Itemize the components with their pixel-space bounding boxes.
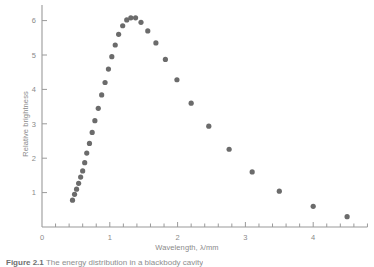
data-point — [250, 169, 255, 174]
x-tick-label: 1 — [108, 233, 112, 242]
data-point — [174, 77, 179, 82]
data-point — [74, 187, 79, 192]
data-point — [80, 168, 85, 173]
y-axis-label: Relative brightness — [21, 91, 30, 157]
data-point — [189, 101, 194, 106]
x-tick-label: 4 — [311, 233, 315, 242]
figure-caption: Figure 2.1 The energy distribution in a … — [6, 258, 203, 267]
x-axis-label: Wavelength, λ/mm — [0, 243, 374, 252]
x-tick-label: 0 — [40, 233, 44, 242]
data-point — [78, 175, 83, 180]
data-point — [82, 160, 87, 165]
data-point — [153, 40, 158, 45]
y-tick-label: 6 — [32, 16, 36, 25]
figure-caption-number: Figure 2.1 — [6, 258, 44, 267]
data-point — [99, 92, 104, 97]
data-point — [138, 20, 143, 25]
data-point — [90, 130, 95, 135]
y-axis-label-wrapper: Relative brightness — [14, 44, 32, 204]
scatter-plot: 01234123456 — [0, 0, 374, 267]
data-point — [76, 181, 81, 186]
figure-container: 01234123456 Wavelength, λ/mm Relative br… — [0, 0, 374, 267]
data-points — [70, 15, 350, 219]
data-point — [70, 198, 75, 203]
data-point — [96, 106, 101, 111]
x-tick-label: 2 — [176, 233, 180, 242]
y-tick-label: 1 — [32, 188, 36, 197]
data-point — [113, 42, 118, 47]
figure-caption-text: The energy distribution in a blackbody c… — [46, 258, 203, 267]
data-point — [133, 15, 138, 20]
axis-tick-labels: 01234123456 — [32, 16, 315, 242]
data-point — [311, 204, 316, 209]
data-point — [87, 141, 92, 146]
data-point — [106, 67, 111, 72]
data-point — [128, 15, 133, 20]
data-point — [163, 57, 168, 62]
data-point — [145, 28, 150, 33]
y-tick-label: 5 — [32, 51, 36, 60]
data-point — [120, 23, 125, 28]
y-tick-label: 4 — [32, 85, 36, 94]
x-tick-label: 3 — [243, 233, 247, 242]
data-point — [109, 54, 114, 59]
data-point — [84, 150, 89, 155]
data-point — [72, 192, 77, 197]
data-point — [227, 147, 232, 152]
data-point — [102, 80, 107, 85]
y-tick-label: 3 — [32, 120, 36, 129]
data-point — [277, 189, 282, 194]
data-point — [345, 214, 350, 219]
axis-ticks — [42, 21, 367, 227]
y-tick-label: 2 — [32, 154, 36, 163]
data-point — [206, 124, 211, 129]
data-point — [92, 118, 97, 123]
data-point — [116, 32, 121, 37]
axes — [42, 5, 367, 227]
